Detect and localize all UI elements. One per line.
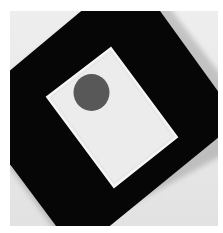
photo-scene <box>0 0 223 233</box>
grey-circle <box>74 74 110 111</box>
photo <box>0 0 223 233</box>
